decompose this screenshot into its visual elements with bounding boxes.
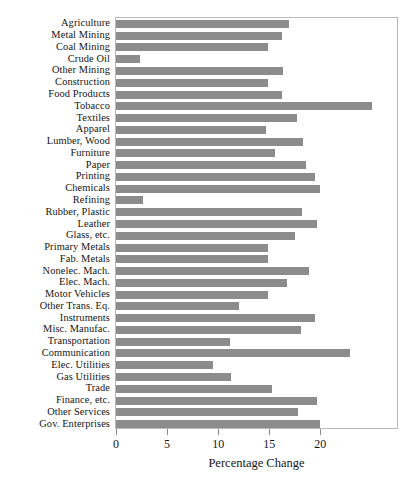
x-axis-tick — [218, 429, 219, 435]
bar — [116, 408, 298, 416]
x-axis-title: Percentage Change — [115, 456, 398, 471]
y-axis-label: Motor Vehicles — [0, 288, 110, 299]
y-axis-label: Trade — [0, 382, 110, 393]
y-axis-label: Misc. Manufac. — [0, 323, 110, 334]
y-axis-label: Coal Mining — [0, 41, 110, 52]
bar — [116, 161, 306, 169]
bar — [116, 102, 372, 110]
x-axis-tick — [167, 429, 168, 435]
bar — [116, 67, 283, 75]
bar — [116, 255, 268, 263]
bar — [116, 397, 317, 405]
y-axis-label: Refining — [0, 194, 110, 205]
bar — [116, 267, 309, 275]
y-axis-label: Leather — [0, 218, 110, 229]
y-axis-category-labels: AgricultureMetal MiningCoal MiningCrude … — [0, 17, 110, 429]
y-axis-label: Paper — [0, 159, 110, 170]
bar — [116, 314, 315, 322]
bar — [116, 302, 239, 310]
bar — [116, 43, 268, 51]
y-axis-label: Food Products — [0, 88, 110, 99]
y-axis-label: Other Services — [0, 406, 110, 417]
y-axis-label: Gov. Enterprises — [0, 418, 110, 429]
y-axis-label: Nonelec. Mach. — [0, 265, 110, 276]
x-axis-tick-label: 10 — [212, 437, 224, 451]
y-axis-label: Other Mining — [0, 64, 110, 75]
bar — [116, 349, 350, 357]
bar — [116, 326, 301, 334]
y-axis-label: Metal Mining — [0, 29, 110, 40]
bar — [116, 208, 302, 216]
bar — [116, 91, 282, 99]
y-axis-label: Elec. Utilities — [0, 359, 110, 370]
bar — [116, 149, 275, 157]
y-axis-label: Agriculture — [0, 17, 110, 28]
x-axis-tick-label: 0 — [113, 437, 119, 451]
bar — [116, 385, 272, 393]
bar — [116, 196, 143, 204]
bar — [116, 220, 317, 228]
y-axis-label: Gas Utilities — [0, 371, 110, 382]
bar — [116, 291, 268, 299]
bar — [116, 338, 230, 346]
y-axis-label: Transportation — [0, 335, 110, 346]
y-axis-label: Rubber, Plastic — [0, 206, 110, 217]
bar — [116, 244, 268, 252]
bar — [116, 373, 231, 381]
y-axis-label: Glass, etc. — [0, 229, 110, 240]
y-axis-label: Fab. Metals — [0, 253, 110, 264]
y-axis-label: Construction — [0, 76, 110, 87]
x-axis-tick — [320, 429, 321, 435]
y-axis-label: Elec. Mach. — [0, 276, 110, 287]
bar — [116, 55, 140, 63]
bar — [116, 32, 282, 40]
y-axis-label: Communication — [0, 347, 110, 358]
bar — [116, 114, 297, 122]
y-axis-label: Tobacco — [0, 100, 110, 111]
plot-panel — [115, 17, 398, 429]
bar-chart: AgricultureMetal MiningCoal MiningCrude … — [0, 0, 420, 494]
x-axis-tick-label: 20 — [314, 437, 326, 451]
bar — [116, 79, 268, 87]
x-axis-tick — [116, 429, 117, 435]
bar — [116, 173, 315, 181]
y-axis-label: Chemicals — [0, 182, 110, 193]
y-axis-label: Finance, etc. — [0, 394, 110, 405]
y-axis-label: Furniture — [0, 147, 110, 158]
y-axis-label: Other Trans. Eq. — [0, 300, 110, 311]
bar — [116, 138, 303, 146]
bar — [116, 20, 289, 28]
x-axis-tick-label: 15 — [263, 437, 275, 451]
bar — [116, 361, 213, 369]
y-axis-label: Lumber, Wood — [0, 135, 110, 146]
bar — [116, 185, 320, 193]
y-axis-label: Crude Oil — [0, 53, 110, 64]
y-axis-label: Textiles — [0, 112, 110, 123]
x-axis-tick-labels: 05101520 — [115, 437, 398, 453]
y-axis-label: Printing — [0, 170, 110, 181]
y-axis-label: Apparel — [0, 123, 110, 134]
bar — [116, 126, 266, 134]
bars-layer — [116, 18, 397, 428]
y-axis-label: Primary Metals — [0, 241, 110, 252]
x-axis-tick — [269, 429, 270, 435]
bar — [116, 232, 295, 240]
y-axis-label: Instruments — [0, 312, 110, 323]
bar — [116, 279, 287, 287]
bar — [116, 420, 320, 428]
x-axis-tick-label: 5 — [164, 437, 170, 451]
